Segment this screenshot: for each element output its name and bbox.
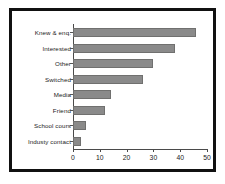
bar-row: Industy contact [12, 134, 219, 149]
chart-figure: Knew & enq.InterestedOtherSwitchedMediaF… [0, 0, 225, 184]
category-label: Industy contact [0, 134, 71, 149]
bar-row: Other [12, 56, 219, 71]
bar [73, 75, 143, 84]
bar [73, 106, 105, 115]
category-label: Interested [0, 41, 71, 56]
category-label: Media [0, 87, 71, 102]
value-axis-tick-label: 30 [141, 154, 165, 161]
value-axis-tick [100, 149, 101, 152]
bar-row: Media [12, 87, 219, 102]
category-label: Friend [0, 103, 71, 118]
category-label: School cours [0, 118, 71, 133]
chart-frame-border: Knew & enq.InterestedOtherSwitchedMediaF… [9, 8, 216, 172]
bar [73, 28, 196, 37]
value-axis-tick [207, 149, 208, 152]
bar-row: Friend [12, 103, 219, 118]
bar-row: Knew & enq. [12, 25, 219, 40]
category-label: Switched [0, 72, 71, 87]
value-axis-tick [153, 149, 154, 152]
plot-area: Knew & enq.InterestedOtherSwitchedMediaF… [12, 11, 219, 175]
value-axis-tick-label: 10 [88, 154, 112, 161]
bar [73, 90, 111, 99]
category-label: Other [0, 56, 71, 71]
bar-row: Switched [12, 72, 219, 87]
bar [73, 59, 153, 68]
bar [73, 137, 81, 146]
bar-row: School cours [12, 118, 219, 133]
value-axis-tick [180, 149, 181, 152]
value-axis-line [73, 149, 208, 150]
bar-row: Interested [12, 41, 219, 56]
value-axis-tick-label: 0 [61, 154, 85, 161]
bar [73, 121, 86, 130]
value-axis-tick-label: 50 [195, 154, 219, 161]
category-label: Knew & enq. [0, 25, 71, 40]
value-axis-tick-label: 20 [115, 154, 139, 161]
bar [73, 44, 175, 53]
value-axis-tick [73, 149, 74, 152]
value-axis-tick [127, 149, 128, 152]
value-axis-tick-label: 40 [168, 154, 192, 161]
